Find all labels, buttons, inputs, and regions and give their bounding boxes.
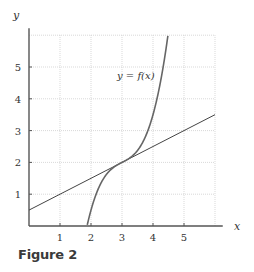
y-tick-label: 1 [15,189,21,200]
x-tick-label: 3 [119,232,125,243]
x-axis-label: x [234,220,241,233]
y-tick-label: 5 [15,62,21,73]
y-tick-label: 3 [15,126,21,137]
x-tick-label: 4 [150,232,156,243]
x-tick-label: 2 [88,232,94,243]
tick-labels: 1234512345 [15,62,188,243]
figure-plot: 1234512345 y x y = f(x) [0,0,254,272]
curve-label: y = f(x) [116,70,155,81]
axes [29,28,223,226]
x-tick-label: 1 [57,232,63,243]
x-tick-label: 5 [181,232,187,243]
curve-label-text: y = f(x) [116,70,155,81]
y-tick-label: 4 [15,94,21,105]
y-tick-label: 2 [15,157,21,168]
figure-caption: Figure 2 [18,247,77,262]
grid [29,35,215,226]
y-axis-label: y [12,9,20,22]
